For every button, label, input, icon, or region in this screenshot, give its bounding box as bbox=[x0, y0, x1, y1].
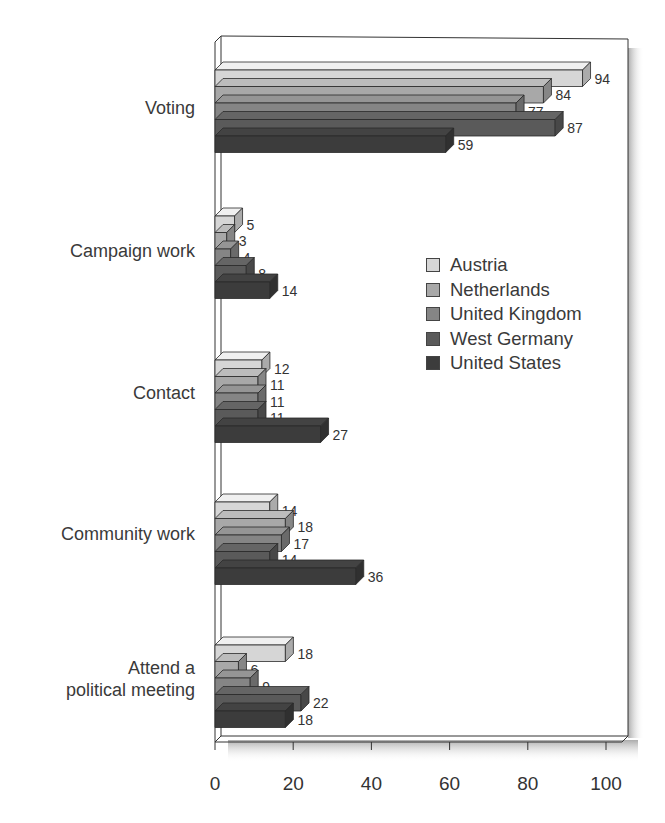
bar-top-face bbox=[215, 369, 266, 377]
legend-swatch-icon bbox=[426, 283, 440, 297]
x-tick-label: 20 bbox=[283, 773, 304, 794]
x-tick-label: 80 bbox=[517, 773, 538, 794]
legend-swatch-icon bbox=[426, 307, 440, 321]
legend-item: United States bbox=[426, 351, 582, 376]
bar-value-label: 18 bbox=[297, 712, 313, 728]
bar-top-face bbox=[215, 527, 289, 535]
bar-value-label: 27 bbox=[333, 427, 349, 443]
bar-value-label: 18 bbox=[297, 646, 313, 662]
category-label: Voting bbox=[145, 97, 195, 119]
x-tick-label: 100 bbox=[590, 773, 622, 794]
bar-top-face bbox=[215, 560, 364, 568]
category-label: Contact bbox=[133, 382, 195, 404]
legend-label: Netherlands bbox=[450, 279, 550, 301]
x-tick-label: 0 bbox=[210, 773, 221, 794]
legend-swatch-icon bbox=[426, 356, 440, 370]
legend: AustriaNetherlandsUnited KingdomWest Ger… bbox=[426, 253, 582, 376]
bar bbox=[215, 568, 356, 585]
bar-top-face bbox=[215, 79, 551, 87]
bar-value-label: 5 bbox=[247, 217, 255, 233]
bar-top-face bbox=[215, 95, 524, 103]
bar-top-face bbox=[215, 703, 293, 711]
legend-swatch-icon bbox=[426, 258, 440, 272]
x-tick-label: 60 bbox=[439, 773, 460, 794]
bar-group: 1211111127 bbox=[215, 352, 348, 443]
bar-value-label: 36 bbox=[368, 569, 384, 585]
legend-item: Netherlands bbox=[426, 278, 582, 303]
bar-top-face bbox=[215, 418, 329, 426]
bar-top-face bbox=[215, 352, 270, 360]
bar-value-label: 94 bbox=[595, 71, 611, 87]
bar-value-label: 22 bbox=[313, 695, 329, 711]
legend-item: Austria bbox=[426, 253, 582, 278]
bar-value-label: 12 bbox=[274, 361, 290, 377]
bar-value-label: 17 bbox=[293, 536, 309, 552]
bar-top-face bbox=[215, 511, 293, 519]
bar-value-label: 11 bbox=[270, 394, 285, 410]
bar-group: 1418171436 bbox=[215, 494, 384, 585]
legend-label: West Germany bbox=[450, 328, 573, 350]
category-label: Community work bbox=[61, 523, 195, 545]
bar-value-label: 18 bbox=[297, 519, 313, 535]
bar-value-label: 84 bbox=[555, 87, 571, 103]
frame-shadow-right bbox=[628, 48, 644, 738]
bar-top-face bbox=[215, 385, 266, 393]
bar-value-label: 14 bbox=[282, 283, 298, 299]
bar-group: 534814 bbox=[215, 208, 298, 299]
bar-group: 9484778759 bbox=[215, 62, 610, 153]
bar-top-face bbox=[215, 274, 278, 282]
bar-value-label: 3 bbox=[239, 233, 247, 249]
category-label: Attend a political meeting bbox=[66, 657, 195, 701]
bar-top-face bbox=[215, 112, 563, 120]
bar-top-face bbox=[215, 128, 454, 136]
bar-top-face bbox=[215, 494, 278, 502]
bar-top-face bbox=[215, 402, 266, 410]
bar bbox=[215, 426, 321, 443]
bars-group: 9484778759534814121111112714181714361869… bbox=[215, 62, 610, 728]
bar-value-label: 11 bbox=[270, 377, 285, 393]
bar-value-label: 87 bbox=[567, 120, 583, 136]
bar bbox=[215, 282, 270, 299]
category-label: Campaign work bbox=[70, 240, 195, 262]
legend-label: United States bbox=[450, 352, 561, 374]
bar-top-face bbox=[215, 544, 278, 552]
frame-shadow-bottom bbox=[228, 740, 638, 762]
x-tick-label: 40 bbox=[361, 773, 382, 794]
bar-value-label: 59 bbox=[458, 137, 474, 153]
bar-top-face bbox=[215, 687, 309, 695]
bar bbox=[215, 136, 446, 153]
legend-label: Austria bbox=[450, 254, 508, 276]
bar-top-face bbox=[215, 62, 591, 70]
bar-group: 18692218 bbox=[215, 637, 329, 728]
bar-top-face bbox=[215, 637, 293, 645]
legend-item: West Germany bbox=[426, 327, 582, 352]
legend-label: United Kingdom bbox=[450, 303, 582, 325]
bar bbox=[215, 711, 285, 728]
legend-item: United Kingdom bbox=[426, 302, 582, 327]
legend-swatch-icon bbox=[426, 332, 440, 346]
